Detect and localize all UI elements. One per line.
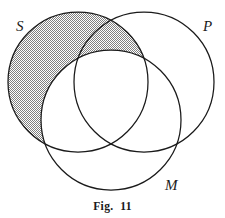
set-label-s: S [16, 18, 24, 34]
set-label-p: P [202, 18, 212, 34]
venn-figure: S P M Fig. 11 [0, 0, 225, 218]
shaded-region-s-minus-m [0, 0, 225, 218]
set-label-m: M [164, 177, 179, 193]
venn-diagram-canvas: S P M [0, 0, 225, 218]
figure-caption: Fig. 11 [0, 200, 225, 212]
